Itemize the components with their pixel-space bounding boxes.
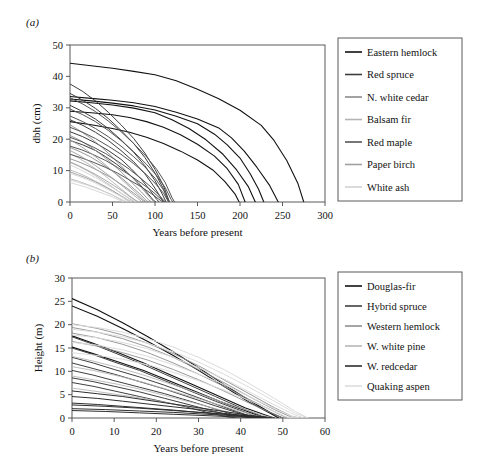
- legend-label: Eastern hemlock: [367, 47, 438, 58]
- y-axis-title: Height (m): [32, 323, 45, 372]
- x-tick-label: 50: [107, 210, 118, 221]
- panel-b: (b) 0102030405060051015202530Years befor…: [0, 240, 483, 474]
- legend-label: Western hemlock: [367, 321, 441, 332]
- series-eastern-hemlock: [70, 63, 304, 202]
- y-tick-label: 20: [55, 319, 66, 330]
- x-axis-title: Years before present: [154, 442, 244, 454]
- trajectories-group: [70, 63, 304, 202]
- y-tick-label: 0: [58, 197, 63, 208]
- series-quaking-aspen: [72, 325, 308, 418]
- legend-label: W. redcedar: [367, 361, 418, 372]
- trajectory-line: [70, 63, 304, 202]
- y-tick-label: 30: [55, 273, 66, 284]
- series-paper-birch: [70, 140, 147, 202]
- legend-label: Douglas-fir: [367, 281, 416, 292]
- legend-label: White ash: [367, 182, 410, 193]
- x-tick-label: 250: [275, 210, 291, 221]
- y-axis-title: dbh (cm): [30, 103, 43, 143]
- y-tick-label: 20: [53, 134, 64, 145]
- legend-label: N. white cedar: [367, 92, 429, 103]
- legend-label: Paper birch: [367, 159, 416, 170]
- figure-root: (a) 05010015020025030001020304050Years b…: [0, 0, 483, 474]
- legend-label: Balsam fir: [367, 114, 412, 125]
- panel-a-label: (a): [26, 16, 39, 28]
- x-tick-label: 10: [109, 426, 120, 437]
- panel-b-label: (b): [26, 252, 39, 264]
- panel-a: (a) 05010015020025030001020304050Years b…: [0, 0, 483, 240]
- legend-label: W. white pine: [367, 341, 426, 352]
- legend-label: Quaking aspen: [367, 381, 430, 392]
- x-tick-label: 200: [232, 210, 248, 221]
- y-tick-label: 10: [55, 366, 66, 377]
- y-tick-label: 15: [55, 343, 66, 354]
- legend-label: Hybrid spruce: [367, 301, 427, 312]
- panel-a-plot: 05010015020025030001020304050Years befor…: [0, 0, 483, 240]
- y-tick-label: 10: [53, 165, 64, 176]
- legend-label: Red spruce: [367, 69, 414, 80]
- y-tick-label: 5: [60, 389, 65, 400]
- x-axis-title: Years before present: [153, 226, 243, 238]
- trajectory-line: [70, 140, 147, 202]
- x-tick-label: 300: [317, 210, 333, 221]
- trajectories-group: [72, 299, 308, 418]
- x-tick-label: 150: [190, 210, 206, 221]
- x-tick-label: 100: [147, 210, 163, 221]
- y-tick-label: 0: [60, 413, 65, 424]
- legend-label: Red maple: [367, 137, 413, 148]
- x-tick-label: 0: [67, 210, 72, 221]
- y-tick-label: 40: [53, 71, 64, 82]
- x-tick-label: 60: [320, 426, 331, 437]
- x-tick-label: 50: [278, 426, 289, 437]
- x-tick-label: 40: [235, 426, 246, 437]
- x-tick-label: 30: [193, 426, 204, 437]
- y-tick-label: 50: [53, 40, 64, 51]
- panel-b-plot: 0102030405060051015202530Years before pr…: [0, 240, 483, 474]
- x-tick-label: 20: [151, 426, 162, 437]
- y-tick-label: 30: [53, 102, 64, 113]
- y-tick-label: 25: [55, 296, 66, 307]
- x-tick-label: 0: [69, 426, 74, 437]
